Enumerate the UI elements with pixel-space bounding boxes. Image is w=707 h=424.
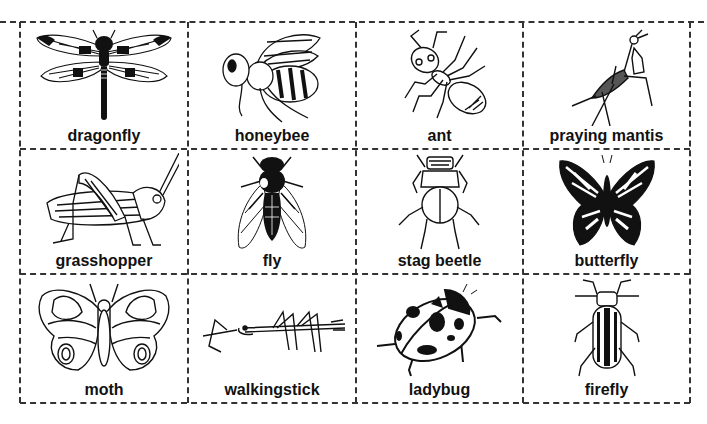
dragonfly-icon xyxy=(29,26,179,126)
card-label: moth xyxy=(20,381,188,399)
grasshopper-icon xyxy=(29,153,179,251)
card-label: fly xyxy=(188,252,356,270)
firefly-icon xyxy=(567,278,647,378)
card-fly: fly xyxy=(188,149,356,274)
card-butterfly: butterfly xyxy=(523,149,690,274)
card-label: stag beetle xyxy=(356,252,523,270)
card-label: ladybug xyxy=(356,381,523,399)
card-praying-mantis: praying mantis xyxy=(523,22,690,149)
card-ant: ant xyxy=(356,22,523,149)
card-label: grasshopper xyxy=(20,252,188,270)
honeybee-icon xyxy=(212,26,332,126)
card-firefly: firefly xyxy=(523,274,690,403)
card-honeybee: honeybee xyxy=(188,22,356,149)
card-label: firefly xyxy=(523,381,690,399)
card-grasshopper: grasshopper xyxy=(20,149,188,274)
card-label: honeybee xyxy=(188,127,356,145)
walkingstick-icon xyxy=(197,278,347,368)
stag-beetle-icon xyxy=(395,153,485,251)
card-ladybug: ladybug xyxy=(356,274,523,403)
card-label: ant xyxy=(356,127,523,145)
praying-mantis-icon xyxy=(552,26,662,126)
card-label: butterfly xyxy=(523,252,690,270)
ant-icon xyxy=(385,26,495,126)
card-walkingstick: walkingstick xyxy=(188,274,356,403)
card-stag-beetle: stag beetle xyxy=(356,149,523,274)
butterfly-icon xyxy=(552,153,662,251)
moth-icon xyxy=(34,278,174,380)
card-label: dragonfly xyxy=(20,127,188,145)
card-label: praying mantis xyxy=(523,127,690,145)
card-moth: moth xyxy=(20,274,188,403)
fly-icon xyxy=(227,153,317,251)
cropped-header-text xyxy=(150,0,570,4)
card-dragonfly: dragonfly xyxy=(20,22,188,149)
ladybug-icon xyxy=(375,278,505,378)
card-label: walkingstick xyxy=(188,381,356,399)
insect-card-grid: dragonfly honeybee xyxy=(20,22,690,403)
